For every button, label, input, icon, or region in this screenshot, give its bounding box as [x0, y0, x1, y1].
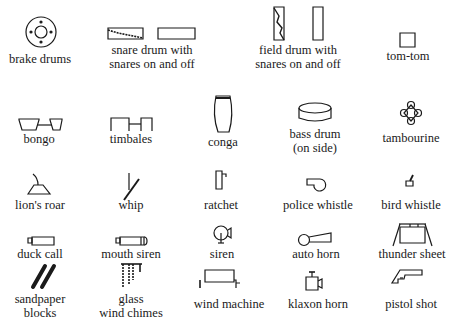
duck-call-icon [28, 237, 54, 245]
conga-icon [214, 96, 231, 132]
label-bird-whistle: bird whistle [381, 198, 440, 212]
tambourine-icon [401, 102, 422, 125]
sandpaper-blocks-icon [33, 266, 54, 287]
label-whip: whip [119, 198, 144, 212]
label-tambourine: tambourine [383, 131, 440, 145]
label-ratchet: ratchet [204, 198, 238, 212]
label-sandpaper-blocks: sandpaperblocks [15, 292, 66, 320]
label-conga: conga [208, 135, 238, 149]
label-pistol-shot: pistol shot [385, 297, 437, 311]
lions-roar-icon [28, 174, 50, 194]
label-thunder-sheet: thunder sheet [379, 247, 446, 261]
label-glass-wind-chimes: glasswind chimes [99, 292, 163, 320]
snare-drum-icon [108, 28, 195, 39]
police-whistle-icon [307, 179, 326, 191]
label-snare-drum: snare drum withsnares on and off [109, 43, 195, 71]
auto-horn-icon [299, 233, 332, 246]
bird-whistle-icon [406, 175, 413, 186]
label-auto-horn: auto horn [292, 247, 340, 261]
label-field-drum: field drum withsnares on and off [255, 43, 341, 71]
label-siren: siren [210, 247, 234, 261]
pistol-shot-icon [392, 270, 422, 283]
whip-icon [124, 173, 139, 200]
bongo-icon [19, 119, 62, 130]
klaxon-horn-icon [306, 272, 322, 290]
label-mouth-siren: mouth siren [101, 247, 160, 261]
thunder-sheet-icon [393, 224, 432, 246]
label-bass-drum: bass drum(on side) [289, 127, 340, 155]
label-brake-drums: brake drums [9, 52, 71, 66]
bass-drum-icon [299, 103, 331, 121]
label-police-whistle: police whistle [283, 198, 353, 212]
label-lions-roar: lion's roar [15, 198, 65, 212]
label-klaxon-horn: klaxon horn [288, 297, 348, 311]
mouth-siren-icon [116, 237, 147, 245]
label-wind-machine: wind machine [194, 297, 264, 311]
label-tom-tom: tom-tom [386, 49, 429, 63]
tom-tom-icon [400, 33, 415, 47]
label-duck-call: duck call [17, 247, 62, 261]
field-drum-icon [274, 7, 323, 40]
ratchet-icon [216, 171, 226, 189]
timbales-icon [111, 118, 152, 131]
wind-machine-icon [200, 270, 240, 288]
siren-icon [214, 226, 231, 243]
glass-wind-chimes-icon [121, 264, 142, 288]
label-bongo: bongo [23, 132, 54, 146]
brake-drums-icon [26, 17, 56, 47]
label-timbales: timbales [110, 132, 152, 146]
